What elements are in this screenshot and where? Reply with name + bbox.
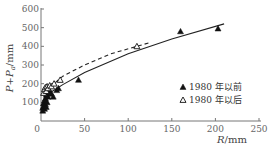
legend-filled-triangle-icon xyxy=(180,84,186,89)
y-tick-label: 600 xyxy=(22,4,39,14)
filled-triangle-point xyxy=(75,77,81,82)
y-axis-label: P+Pa/mm xyxy=(4,43,17,93)
legend-open-triangle-icon xyxy=(180,97,186,102)
open-triangle-point xyxy=(57,77,63,82)
y-tick-label: 500 xyxy=(22,23,39,33)
y-tick-label: 300 xyxy=(22,60,39,70)
y-tick-label: 200 xyxy=(22,79,39,89)
axes: 050100150200250100200300400500600 xyxy=(22,4,268,134)
y-tick-label: 400 xyxy=(22,41,39,51)
x-tick-label: 50 xyxy=(79,124,91,134)
legend-label: 1980 年以前 xyxy=(189,81,242,92)
legend: 1980 年以前1980 年以后 xyxy=(180,81,242,105)
x-tick-label: 250 xyxy=(250,124,267,134)
x-tick-label: 100 xyxy=(120,124,137,134)
x-tick-label: 150 xyxy=(163,124,180,134)
filled-triangle-point xyxy=(178,28,184,33)
x-tick-label: 0 xyxy=(34,124,40,134)
y-tick-label: 100 xyxy=(22,97,39,107)
scatter-chart: 050100150200250100200300400500600 1980 年… xyxy=(0,0,269,150)
x-axis-label: R/mm xyxy=(216,134,247,145)
x-tick-label: 200 xyxy=(207,124,224,134)
legend-label: 1980 年以后 xyxy=(189,94,242,105)
